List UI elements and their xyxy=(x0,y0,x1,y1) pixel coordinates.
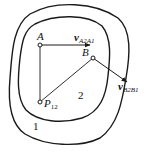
point-B-marker xyxy=(91,56,95,60)
region-1-label: 1 xyxy=(33,120,39,132)
velocity-A-subscript: A2A1 xyxy=(78,37,95,45)
point-P12-label: P12 xyxy=(43,97,58,111)
velocity-B-subscript: B2B1 xyxy=(123,86,139,94)
point-B-label: B xyxy=(82,46,89,58)
velocity-B2B1-label: vB2B1 xyxy=(118,80,138,94)
velocity-A2A1-label: vA2A1 xyxy=(74,31,94,45)
point-P12-marker xyxy=(38,100,42,104)
velocity-vector-B2B1 xyxy=(93,58,127,82)
point-P12-subscript: 12 xyxy=(51,103,59,111)
line-P12-to-B xyxy=(40,58,93,102)
point-A-label: A xyxy=(36,30,44,42)
point-A-marker xyxy=(38,43,42,47)
instant-center-diagram: A B P12 vA2A1 vB2B1 2 1 xyxy=(0,0,147,154)
region-2-label: 2 xyxy=(78,89,84,101)
inner-body-2-outline xyxy=(18,17,109,122)
outer-body-1-outline xyxy=(9,5,129,145)
